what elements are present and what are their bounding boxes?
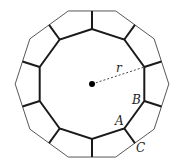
- spoke: [49, 128, 60, 143]
- label-r: r: [116, 61, 123, 75]
- spoke: [23, 101, 40, 107]
- spoke: [124, 25, 135, 40]
- label-A: A: [114, 114, 124, 128]
- spoke: [49, 25, 60, 40]
- center-point: [89, 81, 95, 87]
- spoke: [144, 61, 161, 67]
- decagon-diagram: r B A C: [0, 0, 176, 167]
- spoke: [23, 61, 40, 67]
- label-C: C: [136, 141, 145, 155]
- spoke: [144, 101, 161, 107]
- spoke: [124, 128, 135, 143]
- label-B: B: [131, 93, 141, 107]
